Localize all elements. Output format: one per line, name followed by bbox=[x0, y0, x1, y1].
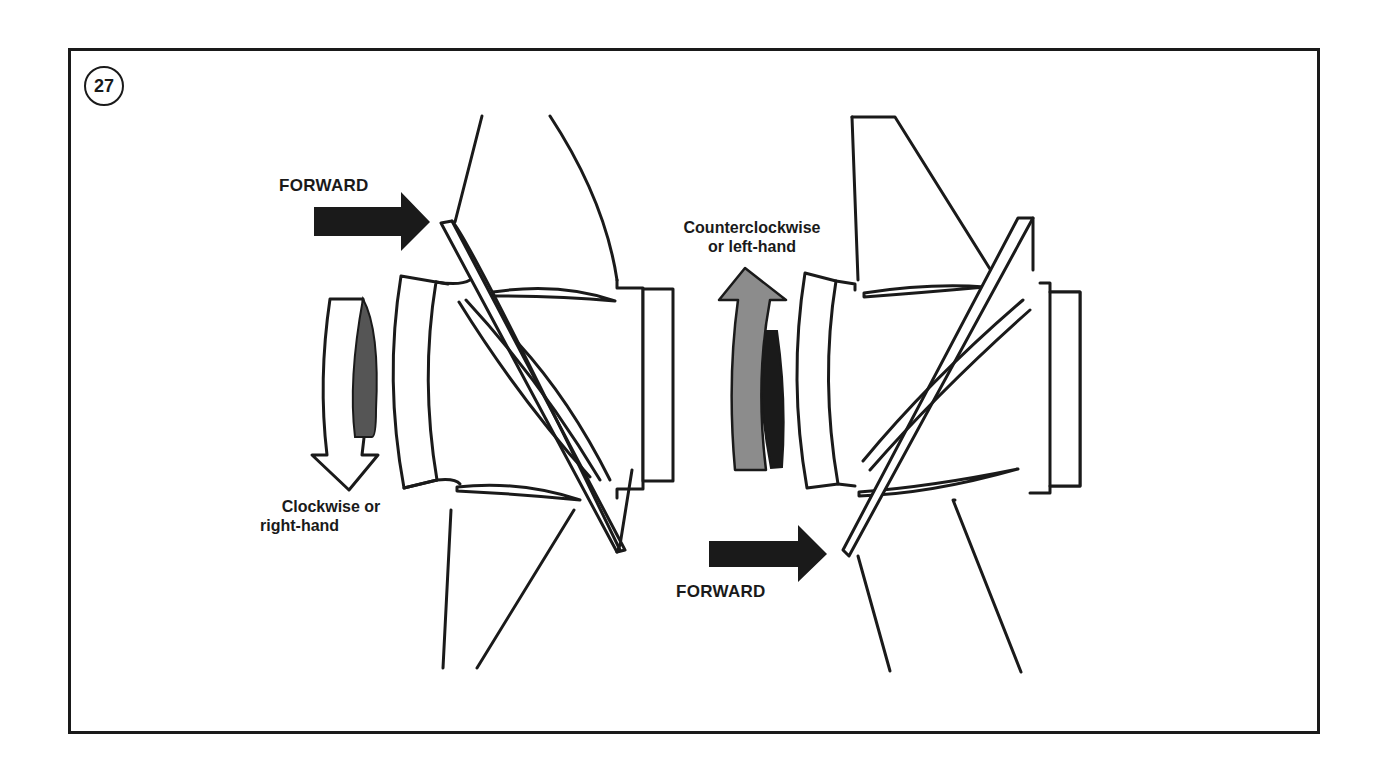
right-forward-label: FORWARD bbox=[676, 582, 766, 602]
counterclockwise-rotation-arrow-icon bbox=[719, 268, 786, 470]
right-propeller bbox=[797, 117, 1080, 672]
left-rotation-label-line2: right-hand bbox=[246, 516, 416, 535]
propeller-diagram bbox=[0, 0, 1383, 770]
right-rotation-label-line2: or left-hand bbox=[652, 237, 852, 256]
right-rotation-label: Counterclockwise or left-hand bbox=[652, 218, 852, 256]
forward-arrow-icon bbox=[709, 525, 827, 582]
clockwise-rotation-arrow-icon bbox=[312, 299, 378, 490]
forward-arrow-icon bbox=[314, 192, 430, 251]
left-rotation-label-line1: Clockwise or bbox=[246, 497, 416, 516]
right-rotation-label-line1: Counterclockwise bbox=[652, 218, 852, 237]
left-propeller bbox=[393, 116, 673, 668]
left-rotation-label: Clockwise or right-hand bbox=[246, 497, 416, 535]
left-forward-label: FORWARD bbox=[279, 176, 369, 196]
